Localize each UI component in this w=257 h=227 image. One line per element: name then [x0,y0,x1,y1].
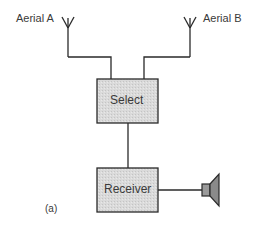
speaker-icon [202,174,219,206]
aerial-b-wire [144,57,190,79]
aerial-b-icon [184,17,196,57]
aerial-b-label: Aerial B [203,12,242,24]
aerial-a-wire [68,57,111,79]
receiver-label: Receiver [104,182,151,196]
diagram-canvas: Aerial A Aerial B Select Receiver (a) [0,0,257,227]
aerial-a-icon [62,17,74,57]
figure-caption: (a) [45,203,57,214]
select-label: Select [110,93,143,107]
aerial-a-label: Aerial A [16,12,54,24]
